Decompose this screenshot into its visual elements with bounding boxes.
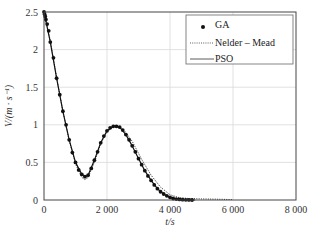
chart: 02 0004 0006 0008 000 00.511.522.5 t/s V… — [0, 0, 313, 234]
y-axis-ticks: 00.511.522.5 — [26, 7, 39, 206]
legend-ga-marker-icon — [201, 25, 205, 29]
x-tick-label: 0 — [42, 204, 47, 215]
x-axis-ticks: 02 0004 0006 0008 000 — [42, 204, 308, 215]
x-tick-label: 2 000 — [96, 204, 119, 215]
x-axis-label: t/s — [165, 216, 175, 227]
y-tick-label: 2 — [33, 44, 38, 55]
y-tick-label: 1 — [33, 119, 38, 130]
legend-pso-label: PSO — [215, 53, 233, 64]
x-tick-label: 8 000 — [285, 204, 308, 215]
legend-ga-label: GA — [215, 19, 230, 30]
y-tick-label: 1.5 — [26, 82, 39, 93]
y-tick-label: 2.5 — [26, 7, 39, 18]
legend: GA Nelder – Mead PSO — [186, 15, 293, 64]
x-tick-label: 4 000 — [159, 204, 182, 215]
y-tick-label: 0 — [33, 195, 38, 206]
y-axis-label: V/(m · s⁻¹) — [3, 84, 15, 127]
pso-line — [44, 12, 195, 200]
legend-nelder-mead-label: Nelder – Mead — [215, 37, 275, 48]
y-tick-label: 0.5 — [26, 157, 39, 168]
x-tick-label: 6 000 — [222, 204, 245, 215]
